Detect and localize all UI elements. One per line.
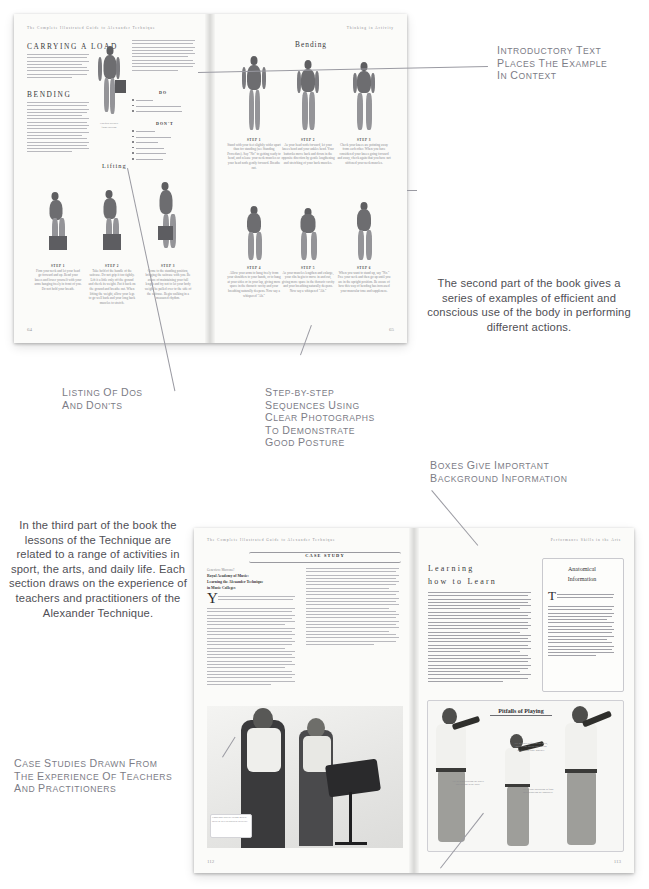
annotation-intro-text: INTRODUCTORY TEXT PLACES THE EXAMPLE IN …	[497, 45, 642, 83]
caption-bending-step-4: STEP 4 Allow your arms to hang freely fr…	[227, 266, 281, 298]
caption-label: STEP 3	[357, 138, 371, 142]
caption-label: STEP 1	[247, 138, 261, 142]
book-spread-bottom: The Complete Illustrated Guide to Alexan…	[194, 528, 634, 873]
case-study-body-col-2	[306, 568, 400, 647]
anatomical-box-dropcap: T	[548, 590, 556, 601]
caption-text: Check your knees are pointing away from …	[337, 143, 390, 165]
photo-lifting-step-2	[90, 176, 134, 262]
label-dont: DON'T	[156, 121, 174, 126]
photo-lifting-step-1	[36, 176, 80, 262]
annotation-line: AND DON'TS	[62, 400, 222, 413]
photo-bending-step-1	[231, 52, 277, 136]
case-study-body-col-1	[218, 596, 296, 603]
dont-list	[136, 131, 194, 165]
learning-body-copy	[428, 592, 532, 684]
caption-bending-step-5: STEP 5 As your muscles lengthen and enla…	[281, 266, 335, 294]
annotation-line: TO DEMONSTRATE	[265, 425, 425, 438]
page-number-right-bottom: 113	[614, 859, 621, 864]
annotation-line: INTRODUCTORY TEXT	[497, 45, 642, 58]
annotation-line: GOOD POSTURE	[265, 437, 425, 450]
pitfalls-title: Pitfalls of Playing	[490, 708, 552, 716]
photo-bending-step-4	[231, 190, 277, 264]
caption-label: STEP 2	[301, 138, 315, 142]
heading-learning-line-2: how to Learn	[428, 577, 497, 586]
caption-text: As your muscles lengthen and enlarge, yo…	[282, 271, 335, 293]
caption-text: Take hold of the handle of the suitcase.…	[89, 269, 136, 305]
caption-label: STEP 3	[161, 264, 175, 268]
annotation-line: BOXES GIVE IMPORTANT	[430, 460, 645, 473]
photo-caption-text: Conscious practice brings mental skills …	[212, 816, 248, 823]
leader-line-second-part	[407, 190, 417, 191]
photo-violinist-right	[558, 704, 614, 850]
case-study-institution-2: Learning the Alexander Technique	[207, 580, 263, 584]
photo-violinist-left	[430, 706, 482, 848]
page-number-right: 65	[389, 327, 394, 332]
do-list	[136, 100, 194, 117]
photo-bending-step-2	[285, 52, 331, 136]
description-third-part: In the third part of the book the lesson…	[8, 518, 188, 620]
case-study-byline: Genevieve Maccone?	[207, 568, 235, 572]
annotation-step-by-step: STEP-BY-STEP SEQUENCES USING CLEAR PHOTO…	[265, 387, 425, 450]
annotation-line: BACKGROUND INFORMATION	[430, 473, 645, 486]
description-second-part: The second part of the book gives a seri…	[424, 276, 634, 334]
anatomical-box-body	[557, 594, 615, 601]
body-copy-left-col-3	[132, 40, 196, 73]
spread-top-right-page: Thinking in Activity Bending STEP 1 Stan…	[211, 14, 407, 343]
annotation-line: AND PRACTITIONERS	[14, 783, 229, 796]
heading-bending-right: Bending	[295, 40, 327, 49]
caption-lifting-step-2: STEP 2 Take hold of the handle of the su…	[88, 264, 136, 305]
case-study-dropcap: Y	[207, 592, 218, 605]
caption-label: STEP 2	[105, 264, 119, 268]
photo-bending-step-6	[341, 190, 387, 264]
heading-learning-line-1: Learning	[428, 564, 474, 573]
caption-bending-step-1: STEP 1 Stand with your feet slightly wid…	[227, 138, 281, 170]
annotation-line: IN CONTEXT	[497, 70, 642, 83]
caption-label: STEP 5	[301, 266, 315, 270]
caption-bending-step-3: STEP 3 Check your knees are pointing awa…	[337, 138, 391, 166]
caption-carrying: Unequal stressesfrom carrying	[92, 122, 126, 129]
caption-text: Stand with your feet slightly wider apar…	[227, 143, 281, 170]
page-number-left: 64	[27, 327, 32, 332]
pitfall-caption-2: Try to stop collapsing in front and narr…	[522, 788, 554, 795]
running-head-right-bottom: Performance Skills in the Arts	[551, 538, 621, 542]
book-layout-figure: The Complete Illustrated Guide to Alexan…	[0, 0, 649, 889]
heading-lifting: Lifting	[102, 162, 127, 169]
heading-bending: BENDING	[27, 90, 71, 99]
anatomical-box-title-line-1: Anatomical	[542, 566, 622, 572]
caption-text: Firm your neck and let your head go forw…	[34, 269, 81, 291]
caption-lifting-step-1: STEP 1 Firm your neck and let your head …	[34, 264, 82, 292]
case-study-banner-label: CASE STUDY	[249, 553, 401, 558]
spread-top-left-page: The Complete Illustrated Guide to Alexan…	[14, 14, 210, 343]
caption-bending-step-2: STEP 2 As your head nods forward, let yo…	[281, 138, 335, 166]
annotation-line: SEQUENCES USING	[265, 400, 425, 413]
caption-label: STEP 1	[51, 264, 65, 268]
annotation-line: THE EXPERIENCE OF TEACHERS	[14, 771, 229, 784]
running-head-right: Thinking in Activity	[347, 26, 394, 30]
annotation-line: PLACES THE EXAMPLE	[497, 58, 642, 71]
annotation-case-studies: CASE STUDIES DRAWN FROM THE EXPERIENCE O…	[14, 758, 229, 796]
body-copy-left-col-1	[27, 54, 90, 80]
photo-bending-step-5	[285, 190, 331, 264]
pitfall-caption-3: Try to avoid bracing the knees and pulli…	[452, 780, 484, 787]
spread-bottom-left-page: The Complete Illustrated Guide to Alexan…	[194, 528, 414, 873]
case-study-institution-1: Royal Academy of Music:	[207, 574, 249, 578]
pitfall-caption-1: Try to avoid stiffening the neck, holdin…	[514, 742, 548, 752]
caption-text: Allow your arms to hang freely from your…	[227, 271, 280, 298]
photo-man-carrying-suitcase	[92, 44, 128, 122]
annotation-dos-donts: LISTING OF DOS AND DON'TS	[62, 387, 222, 412]
caption-bending-step-6: STEP 6 When you want to stand up, say "N…	[337, 266, 391, 294]
body-copy-left-col-2	[27, 102, 90, 155]
annotation-boxes-background: BOXES GIVE IMPORTANT BACKGROUND INFORMAT…	[430, 460, 645, 485]
page-number-left-bottom: 112	[207, 859, 214, 864]
case-study-body-col-1b	[207, 608, 296, 687]
running-head-left: The Complete Illustrated Guide to Alexan…	[27, 26, 155, 30]
caption-text: As your head nods forward, let your knee…	[281, 143, 334, 165]
anatomical-box-body-2	[548, 606, 615, 659]
caption-label: STEP 4	[247, 266, 261, 270]
photo-bending-step-3	[341, 52, 387, 136]
book-spread-top: The Complete Illustrated Guide to Alexan…	[14, 14, 407, 343]
photo-lifting-step-3	[146, 174, 190, 262]
caption-text: When you want to stand up, say "No." Fre…	[338, 271, 391, 293]
annotation-line: STEP-BY-STEP	[265, 387, 425, 400]
spread-bottom-right-page: Performance Skills in the Arts Learning …	[414, 528, 634, 873]
